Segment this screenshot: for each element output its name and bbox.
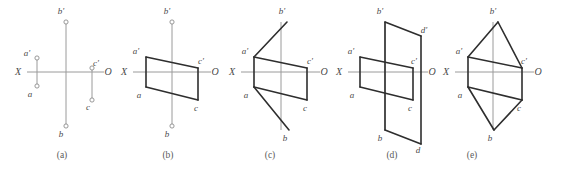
axis-label-x-d: X [335, 66, 343, 77]
panel-caption-b: (b) [162, 150, 173, 161]
point-label-e-b: b [488, 133, 493, 143]
axis-label-o-b: O [211, 66, 218, 77]
point-label-d-c: c [408, 103, 412, 113]
point-label-a-cp: c' [93, 58, 100, 68]
point-label-d-b: b [378, 133, 383, 143]
point-label-a-ap: a' [24, 48, 32, 58]
edge-d-0 [360, 57, 413, 68]
point-marker-b-bp [170, 20, 174, 24]
point-label-d-bp: b' [377, 6, 385, 16]
panel-d: XOa'ab'bc'cd'd(d) [335, 6, 436, 161]
point-label-c-bp: b' [279, 6, 287, 16]
point-marker-a-b [64, 124, 68, 128]
edge-d-4 [385, 22, 421, 36]
point-label-a-a: a [28, 89, 33, 99]
panel-b: XOa'ab'bc'c(b) [120, 6, 219, 161]
point-label-d-dp: d' [421, 25, 429, 35]
axis-label-x-b: X [120, 66, 128, 77]
edge-e-6 [468, 87, 494, 130]
axis-label-x-e: X [442, 66, 450, 77]
edge-d-6 [385, 130, 421, 144]
panel-caption-d: (d) [386, 150, 397, 161]
edge-d-1 [360, 87, 413, 100]
edge-e-0 [468, 57, 522, 68]
panel-a: XOa'ab'bc'c(a) [14, 6, 112, 161]
point-marker-b-b [170, 124, 174, 128]
point-label-b-ap: a' [133, 46, 141, 56]
panel-caption-a: (a) [57, 150, 68, 161]
point-label-a-b: b [59, 129, 64, 139]
point-label-e-bp: b' [490, 6, 498, 16]
point-marker-a-bp [64, 20, 68, 24]
point-label-d-a: a [350, 90, 355, 100]
point-label-d-cp: c' [411, 56, 418, 66]
axis-label-o-e: O [534, 66, 541, 77]
axis-label-o-a: O [104, 66, 111, 77]
point-label-a-c: c [86, 102, 90, 112]
point-label-c-b: b [283, 133, 288, 143]
point-label-e-ap: a' [456, 46, 464, 56]
axis-label-o-c: O [320, 66, 327, 77]
edge-e-1 [468, 87, 522, 100]
axis-label-x-c: X [228, 66, 236, 77]
figure-canvas: XOa'ab'bc'c(a)XOa'ab'bc'c(b)XOa'ab'bc'c(… [0, 0, 561, 171]
axis-label-o-d: O [428, 66, 435, 77]
projection-figure: XOa'ab'bc'c(a)XOa'ab'bc'c(b)XOa'ab'bc'c(… [0, 0, 561, 171]
point-marker-a-a [35, 84, 39, 88]
point-label-b-a: a [137, 90, 142, 100]
edge-e-5 [498, 22, 522, 68]
point-label-d-ap: a' [348, 46, 356, 56]
panel-caption-c: (c) [265, 150, 276, 161]
point-label-b-b: b [165, 129, 170, 139]
point-label-c-cp: c' [307, 56, 314, 66]
panel-caption-e: (e) [467, 150, 478, 161]
point-label-a-bp: b' [58, 6, 66, 16]
point-label-b-bp: b' [164, 6, 172, 16]
point-label-c-a: a [244, 90, 249, 100]
point-label-c-c: c [303, 103, 307, 113]
panel-e: XOa'ab'bc'c(e) [442, 6, 542, 161]
point-label-c-ap: a' [242, 46, 250, 56]
point-label-b-c: c [194, 103, 198, 113]
point-marker-a-ap [35, 56, 39, 60]
axis-label-x-a: X [14, 66, 22, 77]
panel-c: XOa'ab'bc'c(c) [228, 6, 328, 161]
edge-c-4 [254, 22, 287, 57]
point-label-b-cp: c' [198, 56, 205, 66]
point-label-d-d: d [416, 145, 421, 155]
point-marker-a-c [90, 98, 94, 102]
edge-c-5 [254, 87, 289, 130]
point-label-e-cp: c' [521, 56, 528, 66]
point-label-e-a: a [458, 90, 463, 100]
point-label-e-c: c [517, 103, 521, 113]
